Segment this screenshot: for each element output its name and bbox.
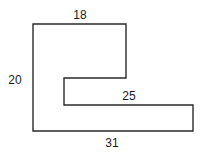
label-bottom-side: 31 <box>105 136 119 150</box>
shape-outline <box>33 24 193 131</box>
label-top-side: 18 <box>73 8 87 22</box>
label-inner-horizontal-side: 25 <box>122 89 136 103</box>
l-shape-diagram: 18 20 25 31 <box>0 0 206 154</box>
label-left-side: 20 <box>8 73 22 87</box>
